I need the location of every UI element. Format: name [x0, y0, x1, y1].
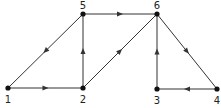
node-dot	[154, 86, 159, 91]
node-1: 1	[5, 85, 11, 105]
edge-6-to-4	[157, 14, 217, 89]
node-label: 1	[5, 94, 11, 105]
node-5: 5	[80, 0, 86, 17]
edge-1-to-2	[8, 86, 83, 91]
node-2: 2	[80, 85, 86, 105]
node-label: 3	[154, 95, 160, 106]
node-label: 2	[80, 94, 86, 105]
arrowhead-icon	[81, 48, 86, 54]
node-dot	[214, 86, 219, 91]
node-dot	[5, 85, 10, 90]
arrowhead-icon	[155, 49, 160, 55]
directed-graph: 125634	[0, 0, 221, 108]
node-label: 5	[80, 0, 86, 11]
arrowhead-icon	[184, 87, 190, 92]
edge-2-to-6	[83, 14, 157, 88]
arrowhead-icon	[117, 12, 123, 17]
node-4: 4	[214, 86, 220, 106]
node-dot	[154, 11, 159, 16]
edge-5-to-1	[8, 14, 83, 88]
node-dot	[80, 11, 85, 16]
arrowhead-icon	[43, 86, 49, 91]
node-dot	[80, 85, 85, 90]
edge-2-to-5	[81, 14, 86, 88]
edge-3-to-6	[155, 14, 160, 89]
node-label: 6	[154, 0, 160, 11]
node-6: 6	[154, 0, 160, 17]
node-3: 3	[154, 86, 160, 106]
edge-4-to-3	[157, 87, 217, 92]
node-label: 4	[214, 95, 220, 106]
edge-5-to-6	[83, 12, 157, 17]
